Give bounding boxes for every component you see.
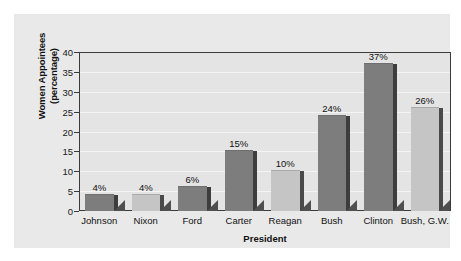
bar-side-face bbox=[393, 64, 397, 211]
bar-slot bbox=[358, 52, 405, 211]
x-axis-tick-label: Johnson bbox=[81, 215, 117, 226]
chart-figure: Women Appointees (percentage) 0510152025… bbox=[0, 0, 461, 261]
bar-shadow bbox=[439, 200, 450, 211]
bar-value-label: 10% bbox=[276, 158, 295, 169]
y-axis-tick-label: 40 bbox=[49, 47, 73, 58]
bar-value-label: 37% bbox=[369, 51, 388, 62]
y-axis-tick-label: 5 bbox=[49, 186, 73, 197]
bar-shadow bbox=[300, 200, 311, 211]
bar-shadow bbox=[393, 200, 404, 211]
y-axis-tick-mark bbox=[74, 211, 79, 212]
bar[interactable] bbox=[178, 186, 207, 211]
chart-panel: Women Appointees (percentage) 0510152025… bbox=[14, 14, 450, 248]
bar-value-label: 6% bbox=[185, 174, 199, 185]
x-axis-tick-label: Ford bbox=[182, 215, 202, 226]
y-axis-tick-label: 20 bbox=[49, 126, 73, 137]
bar-value-label: 24% bbox=[322, 103, 341, 114]
bar[interactable] bbox=[85, 194, 114, 211]
bar-shadow bbox=[253, 200, 264, 211]
y-axis-tick-label: 35 bbox=[49, 66, 73, 77]
bar-slot bbox=[405, 52, 452, 211]
bar[interactable] bbox=[271, 170, 300, 211]
x-axis-tick-label: Bush, G.W. bbox=[401, 215, 449, 226]
bar-slot bbox=[172, 52, 219, 211]
y-axis-title-line1: Women Appointees bbox=[36, 6, 48, 146]
bar-slot bbox=[265, 52, 312, 211]
x-axis-tick-label: Nixon bbox=[134, 215, 158, 226]
x-axis-title: President bbox=[79, 233, 451, 244]
y-axis-tick-label: 0 bbox=[49, 206, 73, 217]
bar-shadow bbox=[346, 200, 357, 211]
bar-shadow bbox=[114, 200, 125, 211]
y-axis-tick-label: 15 bbox=[49, 146, 73, 157]
y-axis-tick-label: 25 bbox=[49, 106, 73, 117]
bar-side-face bbox=[439, 108, 443, 211]
bar-side-face bbox=[346, 116, 350, 211]
y-axis-tick-labels: 0510152025303540 bbox=[50, 52, 76, 211]
y-axis-tick-label: 10 bbox=[49, 166, 73, 177]
x-axis-tick-label: Clinton bbox=[363, 215, 393, 226]
x-axis-tick-labels: JohnsonNixonFordCarterReaganBushClintonB… bbox=[79, 215, 451, 231]
bar[interactable] bbox=[364, 63, 393, 211]
bar-value-label: 15% bbox=[229, 138, 248, 149]
bar-slot bbox=[219, 52, 266, 211]
bar[interactable] bbox=[225, 150, 254, 211]
bar-shadow bbox=[207, 200, 218, 211]
bar-value-label: 4% bbox=[139, 182, 153, 193]
bar-value-label: 26% bbox=[415, 95, 434, 106]
bar-series: 4%4%6%15%10%24%37%26% bbox=[79, 52, 451, 211]
bar-slot bbox=[312, 52, 359, 211]
bar-shadow bbox=[160, 200, 171, 211]
bar[interactable] bbox=[132, 194, 161, 211]
bar-value-label: 4% bbox=[92, 182, 106, 193]
bar[interactable] bbox=[411, 107, 440, 211]
x-axis-tick-label: Bush bbox=[321, 215, 343, 226]
y-axis-tick-label: 30 bbox=[49, 86, 73, 97]
x-axis-tick-label: Carter bbox=[226, 215, 252, 226]
bar[interactable] bbox=[318, 115, 347, 211]
x-axis-tick-label: Reagan bbox=[269, 215, 302, 226]
